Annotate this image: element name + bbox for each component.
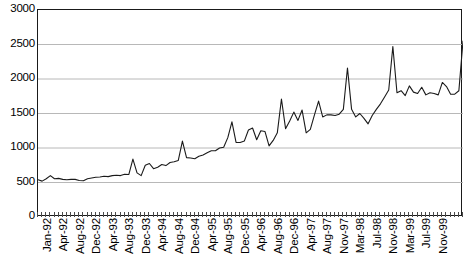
x-tick-mark	[429, 212, 430, 217]
x-tick-label: Apr-92	[58, 218, 70, 251]
x-tick-mark	[252, 212, 253, 217]
x-tick-mark	[346, 212, 347, 217]
x-tick-mark	[95, 212, 96, 217]
x-tick-mark	[384, 212, 385, 217]
x-tick-mark	[268, 212, 269, 217]
x-tick-label: Jul-99	[421, 218, 433, 248]
y-tick-label: 3000	[3, 3, 35, 15]
x-tick-mark	[124, 212, 125, 217]
x-tick-mark	[157, 212, 158, 217]
x-tick-label: Mar-98	[355, 218, 367, 253]
x-tick-label: Aug-94	[174, 218, 186, 254]
plot-area	[37, 9, 462, 216]
x-tick-mark	[235, 212, 236, 217]
x-tick-mark	[198, 212, 199, 217]
x-tick-mark	[91, 212, 92, 217]
x-tick-label: Nov-99	[438, 218, 450, 254]
x-tick-mark	[70, 212, 71, 217]
x-tick-mark	[338, 212, 339, 217]
x-tick-mark	[458, 212, 459, 217]
x-tick-label: Apr-97	[306, 218, 318, 251]
x-tick-mark	[351, 212, 352, 217]
x-tick-mark	[66, 212, 67, 217]
x-tick-mark	[115, 212, 116, 217]
x-tick-label: Aug-92	[75, 218, 87, 254]
y-tick-label: 2000	[3, 72, 35, 84]
x-tick-mark	[144, 212, 145, 217]
x-tick-mark	[437, 212, 438, 217]
x-tick-mark	[103, 212, 104, 217]
x-tick-mark	[375, 212, 376, 217]
x-tick-mark	[412, 212, 413, 217]
x-tick-mark	[322, 212, 323, 217]
x-tick-mark	[450, 212, 451, 217]
x-tick-label: Aug-96	[273, 218, 285, 254]
x-axis: Jan-92Apr-92Aug-92Dec-92Apr-93Aug-93Dec-…	[37, 218, 462, 280]
x-tick-mark	[280, 212, 281, 217]
x-tick-mark	[161, 212, 162, 217]
x-tick-mark	[417, 212, 418, 217]
x-tick-mark	[379, 212, 380, 217]
x-tick-mark	[140, 212, 141, 217]
gridlines	[38, 45, 463, 183]
x-tick-label: Aug-97	[322, 218, 334, 254]
x-tick-mark	[194, 212, 195, 217]
x-tick-mark	[260, 212, 261, 217]
x-tick-mark	[392, 212, 393, 217]
x-tick-mark	[355, 212, 356, 217]
x-tick-label: Nov-98	[388, 218, 400, 254]
x-tick-mark	[227, 212, 228, 217]
x-tick-mark	[309, 212, 310, 217]
x-tick-mark	[111, 212, 112, 217]
x-tick-mark	[210, 212, 211, 217]
x-tick-label: Dec-96	[289, 218, 301, 254]
x-tick-mark	[78, 212, 79, 217]
y-tick-label: 1000	[3, 141, 35, 153]
x-tick-mark	[239, 212, 240, 217]
x-tick-mark	[206, 212, 207, 217]
x-tick-mark	[433, 212, 434, 217]
x-tick-mark	[276, 212, 277, 217]
x-tick-mark	[82, 212, 83, 217]
x-tick-mark	[62, 212, 63, 217]
x-tick-mark	[231, 212, 232, 217]
y-axis: 050010001500200025003000	[0, 0, 35, 280]
x-tick-mark	[128, 212, 129, 217]
x-tick-mark	[388, 212, 389, 217]
x-tick-label: Jan-92	[42, 218, 54, 252]
x-tick-mark	[148, 212, 149, 217]
x-tick-mark	[359, 212, 360, 217]
x-tick-mark	[181, 212, 182, 217]
x-tick-label: Dec-92	[91, 218, 103, 254]
x-tick-label: Apr-95	[207, 218, 219, 251]
x-tick-mark	[45, 212, 46, 217]
x-tick-mark	[87, 212, 88, 217]
x-tick-mark	[330, 212, 331, 217]
x-tick-mark	[441, 212, 442, 217]
x-tick-mark	[363, 212, 364, 217]
x-tick-mark	[396, 212, 397, 217]
x-tick-mark	[54, 212, 55, 217]
x-tick-mark	[165, 212, 166, 217]
x-tick-mark	[301, 212, 302, 217]
x-tick-mark	[289, 212, 290, 217]
x-tick-mark	[371, 212, 372, 217]
y-tick-label: 500	[3, 176, 35, 188]
x-tick-mark	[186, 212, 187, 217]
x-tick-label: Jul-98	[372, 218, 384, 248]
x-tick-mark	[107, 212, 108, 217]
x-tick-mark	[219, 212, 220, 217]
x-tick-mark	[37, 212, 38, 217]
y-tick-label: 1500	[3, 107, 35, 119]
x-tick-mark	[120, 212, 121, 217]
data-series-line	[38, 41, 463, 181]
x-tick-mark	[334, 212, 335, 217]
x-tick-mark	[243, 212, 244, 217]
x-tick-mark	[264, 212, 265, 217]
x-tick-label: Dec-93	[141, 218, 153, 254]
x-tick-label: Apr-93	[108, 218, 120, 251]
x-tick-mark	[58, 212, 59, 217]
x-tick-mark	[49, 212, 50, 217]
x-tick-mark	[214, 212, 215, 217]
x-tick-mark	[285, 212, 286, 217]
